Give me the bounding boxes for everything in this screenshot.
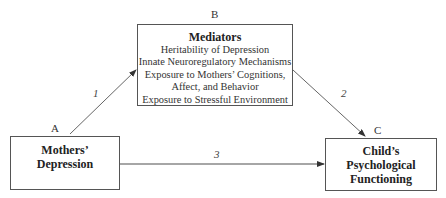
node-a-letter: A — [51, 122, 59, 134]
node-c-title-line2: Psychological — [326, 158, 436, 172]
arrow-b-to-c — [293, 70, 365, 136]
node-c-title-line1: Child’s — [326, 144, 436, 158]
mediator-item: Innate Neuroregulatory Mechanisms — [138, 56, 292, 68]
mediator-item: Affect, and Behavior — [138, 81, 292, 93]
path-label-3: 3 — [214, 148, 220, 160]
node-childs-functioning: Child’s Psychological Functioning — [325, 138, 437, 191]
mediator-item: Exposure to Mothers’ Cognitions, — [138, 69, 292, 81]
node-b-letter: B — [211, 8, 218, 20]
path-label-2: 2 — [341, 87, 347, 99]
mediators-title: Mediators — [138, 30, 292, 44]
node-mothers-depression: Mothers’ Depression — [10, 136, 120, 190]
node-mediators: Mediators Heritability of Depression Inn… — [137, 24, 293, 106]
mediator-item: Exposure to Stressful Environment — [138, 94, 292, 106]
node-c-title-line3: Functioning — [326, 172, 436, 186]
node-a-title-line1: Mothers’ — [11, 143, 119, 157]
mediator-item: Heritability of Depression — [138, 44, 292, 56]
arrow-a-to-b — [70, 70, 136, 134]
node-a-title-line2: Depression — [11, 157, 119, 171]
path-label-1: 1 — [93, 87, 99, 99]
node-c-letter: C — [374, 124, 381, 136]
